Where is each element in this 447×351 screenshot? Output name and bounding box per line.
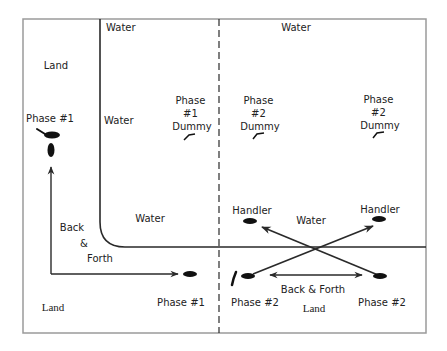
dog-icon [183,271,197,277]
label-handler-left: Handler [232,205,272,216]
diagram-frame [23,19,426,333]
label-phase1-top: Phase #1 [26,113,74,124]
label-water-mid-left: Water [104,115,134,126]
label-back-forth-right: Back & Forth [281,284,345,295]
label-land-top-left: Land [44,60,68,71]
label-land-bottom-right: Land [303,302,326,314]
label-water-lower-right: Water [296,215,326,226]
label-phase2-bottom-right: Phase #2 [358,297,406,308]
label-back-forth-left: Forth [87,253,113,264]
handler-icon [372,216,386,222]
label-water-lower-left: Water [135,213,165,224]
label-back-forth-left: & [80,238,88,249]
training-diagram: Water Water Land Water Phase #1 Back & F… [0,0,447,351]
label-water-top-left: Water [106,22,136,33]
handler-icon [243,218,257,224]
label-handler-right: Handler [360,204,400,215]
dog-icon [48,143,55,157]
label-back-forth-left: Back [60,222,84,233]
dog-icon [373,273,387,279]
label-water-top-right: Water [281,22,311,33]
label-phase2-bottom-left: Phase #2 [231,297,279,308]
label-land-bottom-left: Land [42,301,65,313]
label-phase1-bottom: Phase #1 [157,297,205,308]
